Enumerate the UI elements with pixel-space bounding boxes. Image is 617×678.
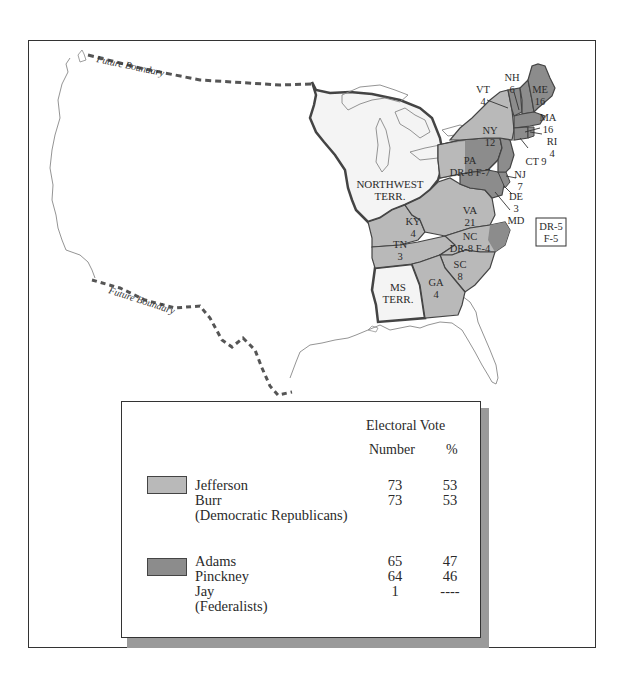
label-tn: TN	[393, 239, 407, 250]
label-ct: CT 9	[525, 156, 546, 167]
west-coast-outline	[50, 58, 95, 278]
swatch-federalist	[147, 558, 187, 576]
pinckney-number: 64	[375, 569, 415, 584]
future-boundary-south-label: Future Boundary	[106, 284, 176, 316]
adams-pct: 47	[430, 554, 470, 569]
label-vt: VT	[476, 84, 491, 95]
swatch-democratic-republican	[147, 476, 187, 494]
label-me-votes: 16	[535, 96, 546, 107]
northwest-terr-label: NORTHWEST	[356, 178, 423, 190]
candidate-jefferson: Jefferson	[195, 478, 248, 493]
future-boundary-north-label: Future Boundary	[95, 53, 166, 78]
jay-pct: ----	[430, 584, 470, 599]
label-ri: RI	[547, 136, 558, 147]
label-nc-votes: DR-8 F-4	[450, 243, 491, 254]
label-ga: GA	[428, 277, 444, 288]
party-democratic-republicans: (Democratic Republicans)	[195, 508, 348, 523]
label-ky-votes: 4	[410, 228, 416, 239]
candidate-jay: Jay	[195, 584, 214, 599]
label-nj: NJ	[514, 169, 526, 180]
burr-pct: 53	[430, 493, 470, 508]
label-ma: MA	[540, 112, 557, 123]
label-sc: SC	[454, 259, 467, 270]
label-ri-votes: 4	[549, 148, 555, 159]
adams-number: 65	[375, 554, 415, 569]
label-ga-votes: 4	[433, 289, 439, 300]
label-nc: NC	[463, 231, 478, 242]
party-federalists: (Federalists)	[195, 599, 267, 614]
pinckney-pct: 46	[430, 569, 470, 584]
md-box-line2: F-5	[544, 233, 559, 244]
label-md: MD	[508, 215, 525, 226]
label-nh: NH	[504, 72, 520, 83]
ms-terr-label-2: TERR.	[383, 293, 414, 305]
label-ny: NY	[482, 125, 498, 136]
label-ny-votes: 12	[485, 137, 496, 148]
label-va-votes: 21	[465, 216, 476, 228]
candidate-pinckney: Pinckney	[195, 569, 249, 584]
candidate-adams: Adams	[195, 554, 236, 569]
state-ct	[514, 127, 528, 140]
label-sc-votes: 8	[457, 271, 462, 282]
label-pa-votes: DR-8 F-7	[450, 167, 491, 178]
legend-header-number: Number	[369, 442, 415, 458]
label-pa: PA	[464, 155, 477, 166]
jay-number: 1	[375, 584, 415, 599]
burr-number: 73	[375, 493, 415, 508]
northwest-terr-label-2: TERR.	[375, 190, 406, 202]
label-de: DE	[509, 191, 523, 202]
legend-header-pct: %	[446, 442, 458, 458]
label-tn-votes: 3	[397, 251, 402, 262]
ms-terr-label: MS	[390, 281, 406, 293]
legend: Electoral Vote Number % Jefferson Burr (…	[121, 401, 481, 638]
legend-header-electoral-vote: Electoral Vote	[366, 418, 445, 434]
label-va: VA	[463, 204, 478, 216]
jefferson-pct: 53	[430, 478, 470, 493]
candidate-burr: Burr	[195, 493, 222, 508]
label-me: ME	[532, 84, 548, 95]
label-de-votes: 3	[513, 203, 518, 214]
jefferson-number: 73	[375, 478, 415, 493]
label-nh-votes: 6	[509, 84, 514, 95]
label-vt-votes: 4	[480, 96, 486, 107]
md-box-line1: DR-5	[539, 221, 562, 232]
label-ky: KY	[405, 216, 421, 227]
label-ma-votes: 16	[543, 124, 554, 135]
